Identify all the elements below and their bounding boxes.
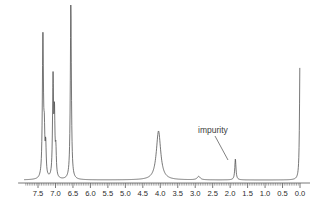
ppm-tick-label: 7.5 (33, 189, 44, 198)
ppm-tick-label: 4.5 (138, 189, 149, 198)
annotation-layer: impurity (198, 125, 229, 160)
ppm-tick-label: 7.0 (50, 189, 61, 198)
ppm-tick-label: 5.5 (103, 189, 114, 198)
nmr-figure: 7.57.06.56.05.55.04.54.03.53.02.52.01.51… (0, 0, 318, 209)
spectrum-canvas: 7.57.06.56.05.55.04.54.03.53.02.52.01.51… (0, 0, 318, 209)
ppm-axis-ruler (18, 183, 310, 188)
ppm-tick-label: 6.5 (68, 189, 79, 198)
impurity-annotation-label: impurity (198, 125, 229, 135)
ppm-tick-label: 6.0 (85, 189, 96, 198)
ppm-tick-label: 3.5 (172, 189, 183, 198)
ppm-tick-label: 3.0 (190, 189, 201, 198)
impurity-leader-line (215, 136, 228, 160)
ppm-tick-label: 0.5 (277, 189, 288, 198)
ppm-tick-label: 2.5 (207, 189, 218, 198)
ppm-tick-label: 4.0 (155, 189, 166, 198)
ppm-tick-label: 0.0 (295, 189, 306, 198)
ppm-tick-label: 1.0 (260, 189, 271, 198)
spectrum-line (24, 5, 300, 180)
spectrum-trace (24, 5, 300, 180)
ppm-tick-label: 5.0 (120, 189, 131, 198)
ppm-tick-labels: 7.57.06.56.05.55.04.54.03.53.02.52.01.51… (33, 189, 306, 198)
ppm-tick-label: 1.5 (242, 189, 253, 198)
ppm-tick-label: 2.0 (225, 189, 236, 198)
